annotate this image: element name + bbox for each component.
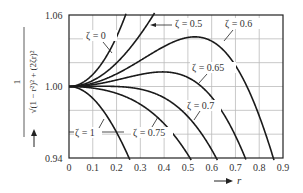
frequency-response-chart: 00.10.20.30.40.50.60.70.80.9 1.06 1.00 0… (0, 0, 303, 193)
x-axis-label: r (237, 174, 242, 186)
y-tick-1.06: 1.06 (45, 10, 63, 21)
y-tick-1.00: 1.00 (45, 81, 63, 92)
y-label-numerator: 1 (12, 80, 22, 85)
x-tick-label: 0.7 (229, 162, 242, 173)
curve-zeta-0.6 (69, 37, 274, 160)
x-tick-label: 0.2 (110, 162, 123, 173)
x-tick-labels: 00.10.20.30.40.50.60.70.80.9 (67, 162, 290, 173)
curve-zeta-0.75 (69, 87, 191, 161)
label-zeta-0.5: ζ = 0.5 (175, 18, 202, 30)
curve-zeta-0 (69, 14, 126, 87)
x-tick-label: 0.4 (158, 162, 171, 173)
label-zeta-0.65: ζ = 0.65 (192, 62, 224, 74)
annotations: ζ = 0 ζ = 0.5 ζ = 0.6 ζ = 0.65 ζ = 0.7 ζ… (69, 18, 264, 139)
label-zeta-0.6: ζ = 0.6 (225, 18, 252, 30)
label-zeta-0: ζ = 0 (86, 30, 106, 42)
x-tick-label: 0.1 (87, 162, 100, 173)
x-tick-label: 0.8 (253, 162, 266, 173)
label-zeta-0.7: ζ = 0.7 (187, 100, 214, 112)
y-tick-0.94: 0.94 (45, 153, 63, 164)
x-tick-label: 0 (67, 162, 72, 173)
x-tick-label: 0.6 (205, 162, 218, 173)
curve-zeta-0.65 (69, 72, 246, 160)
curve-zeta-1 (69, 87, 130, 160)
x-tick-label: 0.9 (277, 162, 290, 173)
x-axis-arrow-icon (214, 178, 233, 184)
x-tick-label: 0.5 (182, 162, 195, 173)
y-label-denominator: √(1 − r²)² + (2ζr)² (28, 50, 38, 113)
x-tick-label: 0.3 (134, 162, 147, 173)
y-axis-arrow-icon (31, 129, 37, 147)
label-zeta-1: ζ = 1 (75, 127, 95, 139)
y-axis-label: 1 √(1 − r²)² + (2ζr)² (12, 27, 38, 137)
label-zeta-0.75: ζ = 0.75 (133, 127, 165, 139)
